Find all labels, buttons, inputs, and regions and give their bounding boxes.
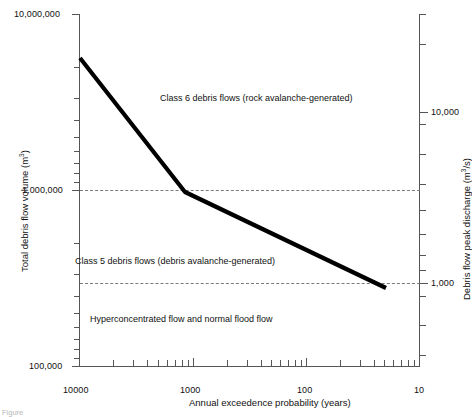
left-tick-minor — [74, 120, 80, 121]
x-tick-minor — [288, 360, 289, 367]
right-tick-minor — [419, 325, 426, 326]
right-tick-label-1000: 1,000 — [431, 278, 454, 288]
x-tick-label-10000: 10000 — [63, 385, 89, 395]
left-tick-minor — [74, 67, 80, 68]
right-tick-minor — [419, 255, 426, 256]
class-5-annotation: Class 5 debris flows (debris avalanche-g… — [75, 256, 275, 266]
left-tick-label-100000: 100,000 — [29, 361, 62, 371]
x-tick-minor — [271, 360, 272, 367]
x-tick-minor — [188, 360, 189, 367]
x-tick-major — [306, 358, 307, 367]
left-tick-minor — [74, 327, 80, 328]
x-tick-minor — [247, 360, 248, 367]
right-axis-title-exponent: 3 — [460, 169, 467, 173]
left-tick-minor — [74, 137, 80, 138]
left-axis-title-exponent: 3 — [18, 153, 25, 157]
bottom-axis-spine — [79, 366, 420, 367]
left-tick-major — [72, 190, 80, 191]
reference-line-1000000 — [80, 190, 420, 191]
left-tick-minor — [74, 163, 80, 164]
left-axis-title-suffix: ) — [19, 150, 30, 153]
right-tick-minor — [419, 124, 426, 125]
x-tick-minor — [374, 360, 375, 367]
x-tick-minor — [133, 360, 134, 367]
right-tick-minor — [419, 154, 426, 155]
class-6-annotation: Class 6 debris flows (rock avalanche-gen… — [160, 93, 353, 103]
left-tick-major — [72, 14, 80, 15]
x-tick-minor — [261, 360, 262, 367]
x-tick-label-1000: 1000 — [180, 385, 200, 395]
x-tick-minor — [182, 360, 183, 367]
x-tick-major — [193, 358, 194, 367]
right-axis-title-text: Debris flow peak discharge (m — [461, 172, 472, 300]
left-tick-minor — [74, 313, 80, 314]
x-tick-minor — [167, 360, 168, 367]
right-tick-minor — [419, 234, 426, 235]
x-axis-title: Annual exceedence probability (years) — [189, 397, 351, 408]
x-tick-minor — [384, 360, 385, 367]
right-tick-minor — [419, 44, 426, 45]
reference-line-340000 — [80, 283, 420, 284]
left-axis-title: Total debris flow volume (m3) — [19, 150, 30, 272]
x-tick-minor — [401, 360, 402, 367]
right-tick-minor — [419, 184, 426, 185]
figure-caption: Figure — [2, 408, 182, 417]
left-tick-minor — [74, 182, 80, 183]
right-tick-label-10000: 10,000 — [431, 107, 459, 117]
x-tick-minor — [227, 360, 228, 367]
x-tick-minor — [280, 360, 281, 367]
right-tick-minor — [419, 14, 426, 15]
x-tick-minor — [360, 360, 361, 367]
hyperconcentrated-annotation: Hyperconcentrated flow and normal flood … — [90, 314, 273, 324]
right-tick-major — [419, 283, 428, 284]
right-tick-minor — [419, 296, 426, 297]
right-tick-major — [419, 112, 428, 113]
x-tick-label-100: 100 — [297, 385, 312, 395]
left-tick-minor — [74, 339, 80, 340]
left-tick-label-10000000: 10,000,000 — [14, 9, 60, 19]
left-tick-minor — [74, 173, 80, 174]
x-tick-minor — [301, 360, 302, 367]
left-tick-minor — [74, 243, 80, 244]
x-tick-minor — [340, 360, 341, 367]
x-tick-minor — [414, 360, 415, 367]
x-tick-major — [419, 358, 420, 367]
left-tick-minor — [74, 349, 80, 350]
left-axis-title-text: Total debris flow volume (m — [19, 157, 30, 272]
x-tick-minor — [113, 360, 114, 367]
left-tick-minor — [74, 98, 80, 99]
x-tick-minor — [158, 360, 159, 367]
x-tick-minor — [393, 360, 394, 367]
x-tick-minor — [408, 360, 409, 367]
left-tick-minor — [74, 274, 80, 275]
x-tick-minor — [175, 360, 176, 367]
right-axis-title: Debris flow peak discharge (m3/s) — [461, 158, 472, 300]
x-tick-minor — [147, 360, 148, 367]
x-tick-major — [79, 358, 80, 367]
x-tick-label-10: 10 — [414, 385, 424, 395]
left-tick-minor — [74, 296, 80, 297]
right-tick-minor — [419, 270, 426, 271]
right-axis-title-suffix: /s) — [461, 158, 472, 169]
right-tick-minor — [419, 355, 426, 356]
right-tick-minor — [419, 210, 426, 211]
x-tick-minor — [295, 360, 296, 367]
left-tick-minor — [74, 151, 80, 152]
